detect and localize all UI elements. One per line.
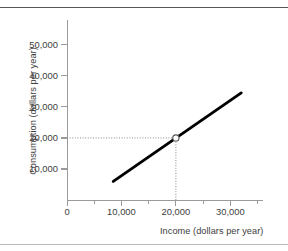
- x-axis-title: Income (dollars per year): [160, 226, 263, 236]
- y-axis-title: Consumption (dollars per year): [28, 26, 38, 196]
- plot-area: [0, 0, 288, 251]
- break-even-point: [173, 135, 179, 141]
- chart-figure: 10,00020,00030,00040,00050,000 010,00020…: [0, 0, 288, 251]
- data-markers: [173, 135, 179, 141]
- guide-lines: [67, 138, 176, 200]
